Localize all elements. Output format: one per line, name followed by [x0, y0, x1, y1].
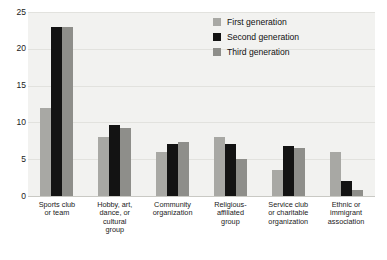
y-axis-tick-label: 10	[2, 118, 26, 127]
bar	[214, 137, 225, 196]
x-axis-category-label: Sports clubor team	[28, 201, 86, 218]
y-axis-tick-label: 0	[2, 192, 26, 201]
bar-chart: 0510152025 Sports clubor teamHobby, art,…	[0, 0, 387, 260]
bar-group	[98, 11, 131, 196]
bar-group	[156, 11, 189, 196]
label-line: association	[317, 218, 375, 226]
gridline	[28, 159, 375, 160]
gridline	[28, 12, 375, 13]
y-axis-tick-label: 25	[2, 8, 26, 17]
legend-item: Third generation	[213, 44, 299, 59]
legend-swatch-icon	[213, 18, 221, 26]
bar	[98, 137, 109, 196]
bar	[330, 152, 341, 196]
label-line: group	[86, 226, 144, 234]
y-axis-tick-label: 5	[2, 155, 26, 164]
bar	[62, 27, 73, 196]
gridline	[28, 122, 375, 123]
chart-legend: First generationSecond generationThird g…	[213, 14, 299, 59]
legend-label: Second generation	[227, 32, 299, 42]
bar-group	[330, 11, 363, 196]
bar	[120, 128, 131, 196]
x-axis-category-label: Service clubor charitableorganization	[259, 201, 317, 226]
bar	[294, 148, 305, 196]
label-line: organization	[259, 218, 317, 226]
label-line: group	[202, 218, 260, 226]
bar	[236, 159, 247, 196]
bar	[272, 170, 283, 196]
bar-group	[40, 11, 73, 196]
gridline	[28, 86, 375, 87]
x-axis-category-label: Ethnic orimmigrantassociation	[317, 201, 375, 226]
bar	[156, 152, 167, 196]
y-axis-tick-label: 20	[2, 44, 26, 53]
bar	[341, 181, 352, 196]
bar	[283, 146, 294, 196]
label-line: or team	[28, 209, 86, 217]
x-axis-baseline	[28, 196, 375, 197]
y-axis-tick-label: 15	[2, 81, 26, 90]
x-axis-category-label: Hobby, art,dance, orculturalgroup	[86, 201, 144, 235]
bar	[109, 125, 120, 196]
legend-swatch-icon	[213, 33, 221, 41]
legend-item: First generation	[213, 14, 299, 29]
bar	[352, 190, 363, 196]
legend-label: Third generation	[227, 47, 290, 57]
bar	[167, 144, 178, 196]
legend-swatch-icon	[213, 48, 221, 56]
legend-item: Second generation	[213, 29, 299, 44]
x-axis-category-label: Communityorganization	[144, 201, 202, 218]
bar	[51, 27, 62, 196]
legend-label: First generation	[227, 17, 287, 27]
x-axis-category-label: Religious-affiliatedgroup	[202, 201, 260, 226]
plot-area-background	[28, 12, 375, 197]
bar	[40, 108, 51, 196]
bar	[225, 144, 236, 196]
bar	[178, 142, 189, 196]
gridline	[28, 49, 375, 50]
label-line: organization	[144, 209, 202, 217]
